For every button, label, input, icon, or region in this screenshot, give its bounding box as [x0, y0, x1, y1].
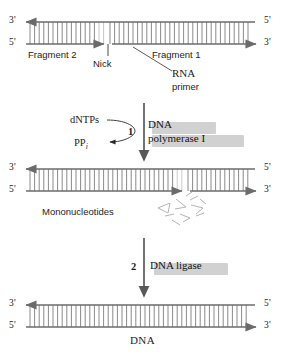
duplex3-right-top-prime: 5' — [264, 298, 271, 308]
duplex2-right-bottom-prime: 3' — [264, 184, 271, 194]
step-1-number: 1 — [128, 126, 133, 137]
step-2-number: 2 — [131, 261, 136, 272]
duplex1-left-bottom-prime: 5' — [9, 37, 16, 47]
duplex1-right-top-prime: 5' — [264, 15, 271, 25]
duplex3-right-bottom-prime: 3' — [264, 320, 271, 330]
nick-label: Nick — [93, 58, 111, 69]
fragment-2-label: Fragment 2 — [28, 49, 77, 60]
dna-product-label: DNA — [130, 334, 155, 346]
dna-ligase-enzyme-box: DNA ligase — [150, 259, 202, 272]
duplex2-right-top-prime: 5' — [264, 162, 271, 172]
duplex1-left-top-prime: 3' — [9, 15, 16, 25]
fragment-1-label: Fragment 1 — [152, 49, 201, 60]
dna-polymerase-line1: DNA — [148, 118, 205, 131]
mononucleotide-fragments — [158, 192, 206, 225]
duplex2-left-top-prime: 3' — [9, 162, 16, 172]
ppi-label: PPi — [74, 137, 88, 151]
dntps-label: dNTPs — [70, 114, 99, 125]
dna-polymerase-enzyme-box: DNA polymerase I — [148, 118, 205, 144]
duplex-2 — [26, 169, 256, 191]
duplex3-left-top-prime: 3' — [9, 298, 16, 308]
rna-primer-label-line1: RNA — [172, 67, 195, 79]
mononucleotides-label: Mononucleotides — [42, 206, 114, 217]
rna-primer-label-line2: primer — [172, 81, 199, 92]
duplex3-left-bottom-prime: 5' — [9, 320, 16, 330]
dna-polymerase-line2: polymerase I — [148, 132, 205, 145]
dna-ligase-label: DNA ligase — [150, 259, 202, 272]
step-1-arrow — [107, 103, 144, 160]
duplex-3 — [26, 305, 256, 327]
duplex1-right-bottom-prime: 3' — [264, 37, 271, 47]
dna-replication-diagram: 3' 5' 5' 3' Fragment 2 Fragment 1 Nick R… — [0, 0, 288, 357]
duplex2-left-bottom-prime: 5' — [9, 184, 16, 194]
duplex-1 — [26, 22, 256, 71]
